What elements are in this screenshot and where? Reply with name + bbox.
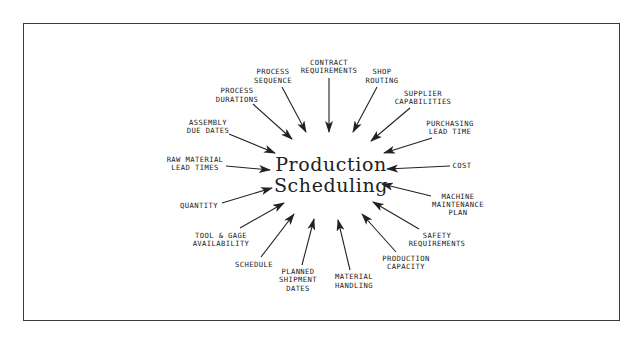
arrow-supplier bbox=[371, 108, 410, 141]
label-safety-2: REQUIREMENTS bbox=[409, 239, 466, 248]
label-rawmat-2: LEAD TIMES bbox=[171, 163, 218, 172]
label-quantity: QUANTITY bbox=[180, 201, 218, 210]
arrow-production bbox=[362, 214, 396, 252]
arrow-sequence bbox=[282, 87, 306, 132]
arrow-rawmat bbox=[226, 166, 270, 170]
label-durations-2: DURATIONS bbox=[216, 95, 259, 104]
arrow-shop bbox=[353, 87, 377, 132]
label-durations-1: PROCESS bbox=[220, 86, 253, 95]
center-title: Production Scheduling bbox=[274, 153, 388, 196]
arrow-assembly bbox=[229, 134, 275, 153]
label-tool-2: AVAILABILITY bbox=[193, 239, 250, 248]
center-title-line1: Production bbox=[275, 153, 387, 175]
arrow-planned bbox=[302, 219, 314, 265]
label-contract-2: REQUIREMENTS bbox=[301, 66, 358, 75]
label-shop-2: ROUTING bbox=[365, 76, 398, 85]
arrow-schedule bbox=[261, 214, 294, 257]
label-material-2: HANDLING bbox=[335, 281, 373, 290]
arrow-purchasing bbox=[384, 138, 432, 153]
label-schedule: SCHEDULE bbox=[235, 260, 273, 269]
label-planned-3: DATES bbox=[286, 284, 310, 293]
label-supplier-2: CAPABILITIES bbox=[395, 97, 452, 106]
label-shop-1: SHOP bbox=[373, 67, 392, 76]
label-machine-3: PLAN bbox=[449, 208, 468, 217]
arrow-material bbox=[338, 220, 350, 270]
label-assembly-2: DUE DATES bbox=[187, 126, 230, 135]
label-material-1: MATERIAL bbox=[335, 272, 373, 281]
arrow-safety bbox=[373, 202, 419, 229]
label-production-2: CAPACITY bbox=[387, 262, 425, 271]
center-title-line2: Scheduling bbox=[274, 174, 388, 196]
production-scheduling-diagram: Production Scheduling CONTRACT REQUIREME… bbox=[0, 0, 642, 340]
arrow-durations bbox=[253, 104, 292, 139]
arrow-machine bbox=[382, 184, 431, 196]
label-sequence-2: SEQUENCE bbox=[254, 76, 292, 85]
label-purchasing-2: LEAD TIME bbox=[429, 127, 472, 136]
arrow-cost bbox=[387, 166, 450, 169]
label-sequence-1: PROCESS bbox=[256, 67, 289, 76]
arrow-tool bbox=[240, 203, 284, 228]
arrow-quantity bbox=[222, 188, 272, 203]
label-planned-2: SHIPMENT bbox=[279, 275, 317, 284]
label-cost: COST bbox=[453, 161, 472, 170]
